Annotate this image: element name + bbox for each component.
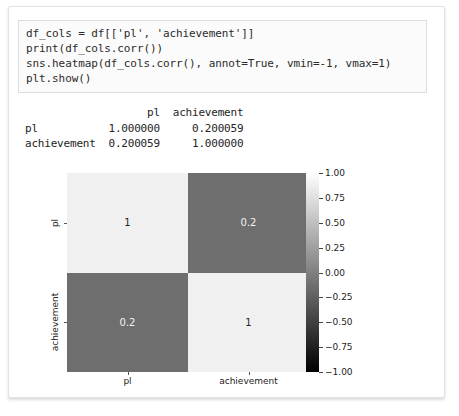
y-axis-tick-pl (64, 223, 67, 224)
heatmap-cell-achievement-achievement: 1 (188, 273, 309, 373)
x-tick-mark-pl (128, 372, 129, 375)
colorbar-tick-7 (319, 322, 323, 323)
printed-correlation-table: pl achievement pl 1.000000 0.200059 achi… (25, 105, 325, 152)
y-axis-tick-achievement (64, 322, 67, 323)
colorbar-tick-2 (319, 198, 323, 199)
heatmap-annotation: 1 (124, 217, 130, 228)
colorbar-tick-9 (319, 372, 323, 373)
x-axis-label-pl: pl (123, 376, 131, 386)
heatmap-cell-pl-achievement: 0.2 (188, 173, 309, 273)
notebook-output-card: df_cols = df[['pl', 'achievement']] prin… (8, 6, 445, 398)
heatmap-annotation: 0.2 (241, 217, 257, 228)
colorbar-tick-1 (319, 173, 323, 174)
colorbar-label-9: −1.00 (325, 367, 353, 377)
heatmap-annotation: 0.2 (120, 317, 136, 328)
code-line-3: sns.heatmap(df_cols.corr(), annot=True, … (26, 56, 420, 71)
colorbar-label-4: 0.25 (325, 243, 345, 253)
heatmap-annotation: 1 (245, 317, 251, 328)
code-input-cell[interactable]: df_cols = df[['pl', 'achievement']] prin… (18, 20, 427, 93)
colorbar-gradient (306, 173, 319, 372)
heatmap-grid: 1 0.2 0.2 1 (67, 173, 309, 372)
code-line-1: df_cols = df[['pl', 'achievement']] (26, 26, 420, 41)
output-row-achievement: achievement 0.200059 1.000000 (25, 136, 325, 152)
colorbar-tick-5 (319, 273, 323, 274)
colorbar-tick-4 (319, 248, 323, 249)
output-header-row: pl achievement (25, 105, 325, 121)
code-line-2: print(df_cols.corr()) (26, 41, 420, 56)
heatmap-cell-pl-pl: 1 (67, 173, 188, 273)
colorbar-label-7: −0.50 (325, 317, 353, 327)
x-tick-mark-achievement (249, 372, 250, 375)
colorbar: 1.00 0.75 0.50 0.25 0.00 −0.25 −0.50 −0.… (306, 173, 416, 372)
heatmap-cell-achievement-pl: 0.2 (67, 273, 188, 373)
colorbar-label-2: 0.75 (325, 193, 345, 203)
y-axis-label-achievement: achievement (50, 293, 60, 352)
colorbar-label-3: 0.50 (325, 218, 345, 228)
colorbar-tick-3 (319, 223, 323, 224)
y-axis-label-pl: pl (50, 219, 60, 227)
heatmap-figure: 1 0.2 0.2 1 pl achievement pl achievemen… (29, 163, 429, 391)
code-line-4: plt.show() (26, 71, 420, 86)
x-axis-label-achievement: achievement (219, 376, 278, 386)
colorbar-label-8: −0.75 (325, 342, 353, 352)
output-row-pl: pl 1.000000 0.200059 (25, 121, 325, 137)
colorbar-tick-8 (319, 347, 323, 348)
colorbar-tick-6 (319, 297, 323, 298)
colorbar-label-1: 1.00 (325, 168, 345, 178)
colorbar-label-5: 0.00 (325, 268, 345, 278)
colorbar-label-6: −0.25 (325, 292, 353, 302)
